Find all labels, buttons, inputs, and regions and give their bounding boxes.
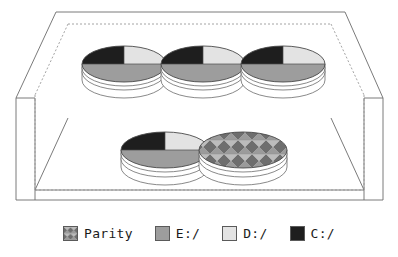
legend-item-e-drive[interactable]: E:/ [155,226,200,241]
legend-label-e-drive: E:/ [176,227,200,240]
legend-item-parity[interactable]: Parity [63,226,133,241]
disk-1[interactable] [82,46,166,98]
disk-4[interactable] [121,132,209,185]
e-drive-swatch [155,226,170,241]
disk-2[interactable] [161,46,245,98]
figure-canvas: Parity E:/ D:/ C:/ [0,0,398,257]
c-drive-swatch [290,226,305,241]
parity-pattern-swatch [63,226,78,241]
legend-label-d-drive: D:/ [243,227,267,240]
disk-5[interactable] [199,132,287,185]
legend-item-d-drive[interactable]: D:/ [222,226,267,241]
d-drive-swatch [222,226,237,241]
legend-item-c-drive[interactable]: C:/ [290,226,335,241]
disk-legend: Parity E:/ D:/ C:/ [0,218,398,248]
legend-label-parity: Parity [84,227,133,240]
legend-label-c-drive: C:/ [311,227,335,240]
disk-3[interactable] [241,46,325,98]
